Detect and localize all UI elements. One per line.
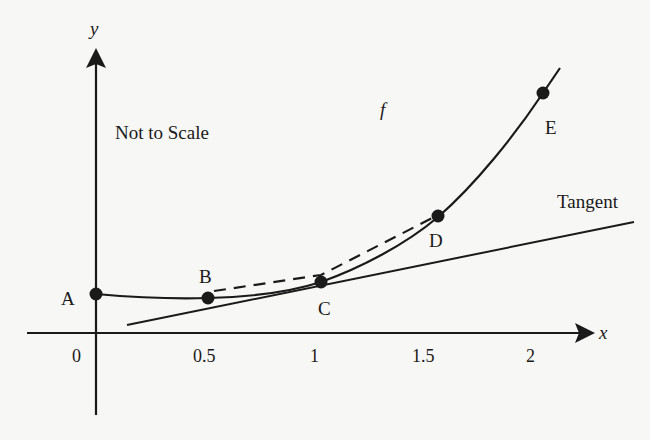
point-a-marker xyxy=(90,288,103,301)
x-tick-label: 0 xyxy=(72,346,81,366)
x-tick-label: 0.5 xyxy=(193,346,216,366)
x-tick-label: 1 xyxy=(310,346,319,366)
point-b-label: B xyxy=(199,266,212,287)
point-e-label: E xyxy=(545,117,557,138)
point-b-marker xyxy=(202,292,215,305)
x-tick-label: 2 xyxy=(526,346,535,366)
y-axis-label: y xyxy=(88,18,99,39)
point-e-marker xyxy=(537,87,550,100)
point-a-label: A xyxy=(61,288,75,309)
not-to-scale-note: Not to Scale xyxy=(115,122,209,143)
point-c-label: C xyxy=(318,298,331,319)
point-d-label: D xyxy=(429,230,443,251)
point-d-marker xyxy=(432,210,445,223)
function-tangent-diagram: y x 0 0.5 1 1.5 2 A B C D E f Tangent No… xyxy=(0,0,650,440)
background xyxy=(0,0,650,440)
point-c-marker xyxy=(315,276,328,289)
x-axis-label: x xyxy=(598,322,608,343)
x-tick-label: 1.5 xyxy=(412,346,435,366)
tangent-label: Tangent xyxy=(557,191,619,212)
